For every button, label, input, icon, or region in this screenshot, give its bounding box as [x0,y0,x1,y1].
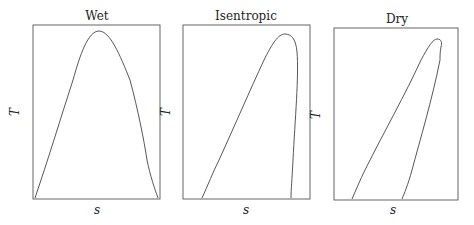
panel-wet-xlabel: s [94,203,100,217]
panel-dry: Dry s T [309,12,458,217]
saturation-dome-diagram: Wet s T Isentropic s T Dry s T [0,0,474,225]
panel-isentropic-frame [183,25,310,199]
panel-isentropic-ylabel: T [159,107,173,116]
panel-isentropic-saturation-curve [202,34,298,198]
panel-wet: Wet s T [8,9,160,217]
panel-isentropic: Isentropic s T [159,9,310,217]
panel-wet-frame [33,25,160,199]
panel-dry-xlabel: s [390,203,396,217]
panel-dry-frame [334,28,458,200]
panel-wet-title: Wet [85,9,108,23]
panel-wet-saturation-curve [35,31,158,198]
panel-dry-saturation-curve [352,39,442,199]
panel-isentropic-xlabel: s [243,203,249,217]
panel-isentropic-title: Isentropic [215,9,277,23]
panel-dry-ylabel: T [309,110,323,119]
panel-dry-title: Dry [386,12,408,26]
panel-wet-ylabel: T [8,107,22,116]
